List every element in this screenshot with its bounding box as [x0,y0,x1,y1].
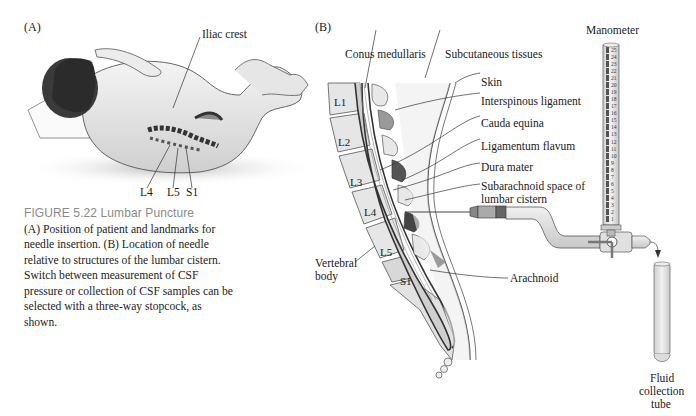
label-tube-3: tube [651,398,671,411]
manometer-tick: 19 [606,89,617,95]
manometer-tick: 23 [606,61,617,67]
label-arachnoid: Arachnoid [510,272,559,285]
label-tube-2: collection [639,385,684,398]
manometer-tick: 12 [606,139,617,145]
manometer-tick: 14 [606,124,617,130]
manometer-tick: 11 [606,146,616,152]
manometer-tick: 3 [606,202,614,208]
label-manometer: Manometer [586,24,639,37]
vertebra-l1: L1 [334,96,346,109]
vertebra-l2: L2 [338,136,350,149]
fluid-collection-tube [654,262,670,362]
label-dura-mater: Dura mater [481,161,533,174]
needle-assembly [405,206,661,258]
label-l4: L4 [140,186,153,199]
label-subcutaneous-tissues: Subcutaneous tissues [445,48,542,61]
caption-body: (A) Position of patient and landmarks fo… [24,222,234,331]
manometer-scale: 2524232221201918171615141312111098765432… [606,47,620,223]
label-subarachnoid-space-2: lumbar cistern [481,193,547,206]
manometer-tick: 25 [606,47,617,53]
label-tube-1: Fluid [650,372,674,385]
manometer-tick: 5 [606,188,614,194]
manometer-tick: 16 [606,110,617,116]
manometer-tick: 7 [606,174,614,180]
caption-title: FIGURE 5.22 Lumbar Puncture [24,206,234,222]
manometer-tick: 20 [606,82,617,88]
manometer-tick: 13 [606,131,617,137]
label-iliac-crest: Iliac crest [202,28,247,41]
label-s1: S1 [186,186,198,199]
manometer-tick: 2 [606,209,614,215]
manometer-tick: 1 [606,216,614,222]
vertebra-s1: S1 [400,275,412,288]
vertebra-l5: L5 [380,246,392,259]
vertebra-l4: L4 [364,206,376,219]
manometer-tick: 8 [606,167,614,173]
figure-caption: FIGURE 5.22 Lumbar Puncture (A) Position… [24,206,234,330]
manometer-tick: 6 [606,181,614,187]
manometer-tick: 21 [606,75,617,81]
label-vertebral-body-2: body [315,270,338,283]
label-conus-medullaris: Conus medullaris [345,48,426,61]
label-interspinous-ligament: Interspinous ligament [481,95,581,108]
manometer-tick: 18 [606,96,617,102]
label-l5: L5 [167,186,180,199]
label-vertebral-body-1: Vertebral [315,257,357,270]
label-ligamentum-flavum: Ligamentum flavum [481,140,575,153]
label-subarachnoid-space-1: Subarachnoid space of [481,180,585,193]
vertebra-l3: L3 [350,176,362,189]
manometer-tick: 4 [606,195,614,201]
manometer-tick: 10 [606,153,617,159]
manometer-tick: 17 [606,103,617,109]
manometer-tick: 9 [606,160,614,166]
manometer-tick: 24 [606,54,617,60]
panel-b-label: (B) [315,20,331,35]
manometer-tick: 15 [606,117,617,123]
manometer-tick: 22 [606,68,617,74]
label-cauda-equina: Cauda equina [481,117,544,130]
label-skin: Skin [481,76,502,89]
